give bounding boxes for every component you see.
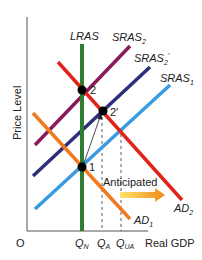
point-1 bbox=[78, 163, 87, 172]
sras1-label: SRAS1 bbox=[160, 72, 194, 86]
sras2-prime-label: SRAS2′ bbox=[134, 52, 170, 66]
tick-qa: QA bbox=[97, 237, 111, 250]
as-ad-diagram: 2 2′ 1 LRAS SRAS2 SRAS2′ SRAS1 AD2 AD1 A… bbox=[0, 0, 202, 260]
point-2-prime bbox=[99, 107, 108, 116]
point-2-prime-label: 2′ bbox=[110, 106, 118, 118]
point-2-label: 2 bbox=[90, 84, 96, 96]
tick-qua: QUA bbox=[116, 237, 135, 250]
anticipated-arrow-icon bbox=[120, 188, 165, 202]
anticipated-label: Anticipated bbox=[103, 176, 157, 188]
ad2-label: AD2 bbox=[173, 202, 193, 216]
tick-qn: QN bbox=[75, 237, 90, 250]
point-2 bbox=[78, 86, 87, 95]
origin-label: O bbox=[16, 237, 25, 249]
sras2-label: SRAS2 bbox=[112, 31, 146, 45]
y-axis-label: Price Level bbox=[11, 86, 23, 140]
lras-label: LRAS bbox=[70, 30, 99, 42]
x-axis-label: Real GDP bbox=[145, 237, 195, 249]
ad1-label: AD1 bbox=[133, 214, 153, 228]
point-1-label: 1 bbox=[89, 161, 95, 173]
